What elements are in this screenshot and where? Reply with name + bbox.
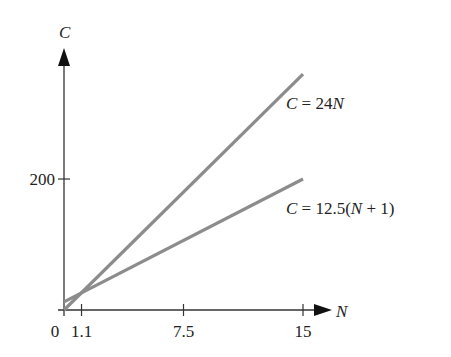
series-label-24n: C = 24N bbox=[286, 94, 345, 113]
series-line-1 bbox=[64, 74, 303, 310]
chart: 01.17.515 200 C N C = 24N C = 12.5(N + 1… bbox=[0, 0, 451, 357]
x-tick-label: 15 bbox=[295, 322, 312, 341]
x-tick-label: 1.1 bbox=[71, 322, 92, 341]
y-axis-label: C bbox=[59, 23, 71, 42]
x-axis-arrow-icon bbox=[314, 304, 332, 316]
x-axis-label: N bbox=[335, 302, 349, 321]
x-tick-label: 7.5 bbox=[173, 322, 194, 341]
y-tick-label: 200 bbox=[30, 170, 56, 189]
series-line-2 bbox=[64, 179, 303, 302]
y-axis-arrow-icon bbox=[58, 48, 70, 66]
x-tick-label: 0 bbox=[51, 322, 60, 341]
series-label-12-5: C = 12.5(N + 1) bbox=[286, 199, 394, 218]
series-lines bbox=[64, 74, 303, 310]
